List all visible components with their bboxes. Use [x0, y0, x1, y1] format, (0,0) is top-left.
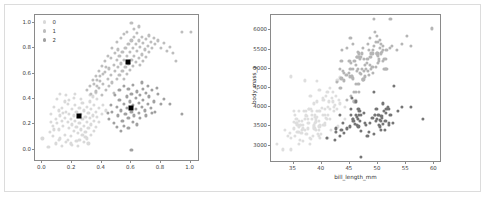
data-point — [325, 94, 328, 97]
data-point — [134, 60, 137, 63]
data-point — [137, 39, 140, 42]
data-point — [357, 83, 360, 86]
data-point — [330, 96, 333, 99]
legend-item-cluster-1[interactable]: 1 — [38, 27, 56, 35]
data-point — [381, 44, 384, 47]
data-point — [66, 120, 69, 123]
data-point — [338, 102, 341, 105]
data-point — [294, 134, 297, 137]
data-point — [298, 109, 301, 112]
data-point — [146, 85, 149, 88]
data-point — [88, 116, 91, 119]
data-point — [110, 81, 113, 84]
data-point — [363, 75, 366, 78]
plot-area-right — [271, 15, 440, 161]
x-tick-label: 0.2 — [67, 164, 76, 170]
data-point — [81, 118, 84, 121]
data-point — [97, 120, 100, 123]
data-point — [110, 46, 113, 49]
cluster-centroid-marker — [126, 60, 131, 65]
data-point — [143, 109, 146, 112]
data-point — [371, 48, 374, 51]
data-point — [384, 111, 387, 114]
data-point — [85, 88, 88, 91]
data-point — [366, 134, 369, 137]
data-point — [149, 106, 152, 109]
figure-canvas: 0.00.20.40.60.81.00.00.20.40.60.81.0 012… — [0, 0, 487, 200]
data-point — [168, 45, 171, 48]
data-point — [152, 100, 155, 103]
data-point — [388, 121, 391, 124]
data-point — [389, 17, 392, 20]
data-point — [63, 133, 66, 136]
data-point — [316, 80, 319, 83]
data-point — [302, 123, 305, 126]
legend-label: 0 — [52, 19, 55, 25]
x-tick-label: 0.4 — [96, 164, 105, 170]
x-tick-label: 50 — [374, 165, 381, 171]
x-tick-label: 0.6 — [126, 164, 135, 170]
data-point — [102, 104, 105, 107]
data-point — [150, 46, 153, 49]
data-point — [349, 113, 352, 116]
data-point — [143, 48, 146, 51]
data-point — [121, 50, 124, 53]
data-point — [72, 129, 75, 132]
data-point — [124, 113, 127, 116]
x-tick-label: 0.0 — [37, 164, 46, 170]
data-point — [112, 122, 115, 125]
x-tick-mark — [293, 162, 294, 164]
data-point — [110, 110, 113, 113]
data-point — [389, 113, 392, 116]
data-point — [91, 78, 94, 81]
data-point — [53, 105, 56, 108]
data-point — [47, 146, 50, 149]
data-point — [78, 122, 81, 125]
legend-marker-icon — [43, 38, 46, 41]
data-point — [357, 125, 360, 128]
data-point — [372, 44, 375, 47]
data-point — [116, 66, 119, 69]
data-point — [148, 34, 151, 37]
data-point — [65, 141, 68, 144]
data-point — [102, 82, 105, 85]
data-point — [384, 119, 387, 122]
data-point — [384, 58, 387, 61]
x-tick-mark — [160, 161, 161, 163]
data-point — [93, 129, 96, 132]
data-point — [140, 81, 143, 84]
data-point — [361, 52, 364, 55]
data-point — [130, 92, 133, 95]
data-point — [102, 72, 105, 75]
data-point — [367, 73, 370, 76]
data-point — [134, 96, 137, 99]
data-point — [99, 74, 102, 77]
data-point — [338, 98, 341, 101]
legend-item-cluster-0[interactable]: 0 — [38, 18, 56, 26]
data-point — [90, 123, 93, 126]
legend-item-cluster-2[interactable]: 2 — [38, 36, 56, 44]
data-point — [410, 44, 413, 47]
data-point — [115, 77, 118, 80]
data-point — [63, 116, 66, 119]
data-point — [348, 125, 351, 128]
x-tick-label: 35 — [289, 165, 296, 171]
data-point — [53, 128, 56, 131]
data-point — [189, 30, 192, 33]
data-point — [326, 113, 329, 116]
data-point — [84, 130, 87, 133]
data-point — [109, 57, 112, 60]
data-point — [309, 137, 312, 140]
data-point — [146, 44, 149, 47]
data-point — [396, 48, 399, 51]
data-point — [139, 116, 142, 119]
data-point — [125, 95, 128, 98]
x-tick-label: 1.0 — [185, 164, 194, 170]
data-point — [351, 67, 354, 70]
data-point — [90, 108, 93, 111]
data-point — [133, 114, 136, 117]
data-point — [137, 25, 140, 28]
data-point — [57, 138, 60, 141]
axes-right — [270, 14, 441, 162]
data-point — [57, 128, 60, 131]
